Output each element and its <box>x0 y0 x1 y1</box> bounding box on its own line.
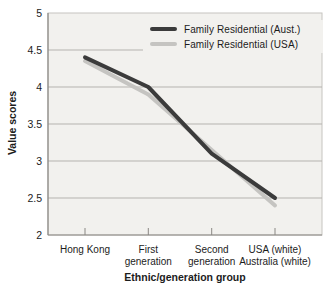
x-category-label: USA (white)Australia (white) <box>239 244 311 267</box>
y-axis-title: Value scores <box>6 91 18 155</box>
legend-label-aust: Family Residential (Aust.) <box>184 24 301 35</box>
y-tick-label: 4.5 <box>27 44 42 56</box>
legend-line-swatch-aust <box>150 27 177 31</box>
x-axis-title: Ethnic/generation group <box>48 271 322 283</box>
x-category-label: Hong Kong <box>60 244 110 255</box>
legend-line-swatch-usa <box>150 42 177 46</box>
chart-legend: Family Residential (Aust.) Family Reside… <box>143 20 323 53</box>
x-category-label: Secondgeneration <box>188 244 235 267</box>
y-tick-label: 3.5 <box>27 118 42 130</box>
legend-item-usa: Family Residential (USA) <box>150 38 323 51</box>
y-tick-label: 4 <box>36 81 42 93</box>
legend-item-aust: Family Residential (Aust.) <box>150 23 323 36</box>
y-tick-label: 2 <box>36 229 42 241</box>
x-category-label: Firstgeneration <box>125 244 172 267</box>
y-tick-label: 2.5 <box>27 192 42 204</box>
y-tick-label: 3 <box>36 155 42 167</box>
y-tick-label: 5 <box>36 7 42 19</box>
chart-figure: 54.543.532.52Hong KongFirstgenerationSec… <box>0 0 331 292</box>
legend-label-usa: Family Residential (USA) <box>184 39 298 50</box>
